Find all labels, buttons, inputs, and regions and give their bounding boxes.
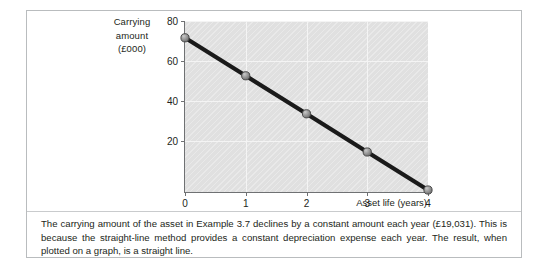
data-series-carrying-amount [185, 21, 428, 192]
x-tick-label-0: 0 [182, 198, 188, 209]
x-tick-mark-2 [307, 192, 308, 196]
x-tick-label-1: 1 [243, 198, 249, 209]
y-tick-label-40: 40 [167, 96, 178, 107]
data-point [242, 72, 250, 80]
plot-area: 80 60 40 20 0 1 2 3 4 [184, 21, 428, 193]
x-tick-mark-3 [367, 192, 368, 196]
x-axis-title: Asset life (years) [275, 197, 427, 208]
y-axis-title-line-3: (£000) [101, 42, 163, 56]
chart-area: Carrying amount (£000) 80 60 40 20 0 [27, 11, 521, 211]
x-tick-mark-0 [185, 192, 186, 196]
data-point [302, 110, 310, 118]
caption-divider [27, 211, 521, 212]
y-tick-label-60: 60 [167, 56, 178, 67]
x-tick-mark-1 [246, 192, 247, 196]
y-tick-label-80: 80 [167, 16, 178, 27]
y-tick-label-20: 20 [167, 136, 178, 147]
data-point [363, 148, 371, 156]
figure-caption: The carrying amount of the asset in Exam… [41, 217, 507, 258]
y-axis-title: Carrying amount (£000) [101, 15, 163, 56]
figure-panel: Carrying amount (£000) 80 60 40 20 0 [26, 10, 522, 258]
y-axis-title-line-2: amount [101, 29, 163, 43]
y-axis-title-line-1: Carrying [101, 15, 163, 29]
data-point [181, 34, 189, 42]
data-point [424, 186, 432, 194]
